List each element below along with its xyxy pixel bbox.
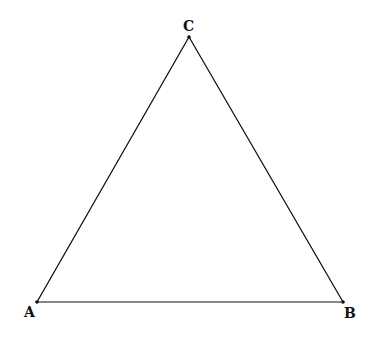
vertex-c-label: C xyxy=(183,18,194,34)
vertex-a-label: A xyxy=(23,304,36,320)
triangle-diagram: A B C xyxy=(0,0,377,341)
vertex-a-point xyxy=(35,300,39,304)
triangle-abc xyxy=(37,37,343,302)
vertex-c-point xyxy=(187,35,191,39)
vertex-b-label: B xyxy=(344,305,356,321)
vertex-b-point xyxy=(341,300,345,304)
